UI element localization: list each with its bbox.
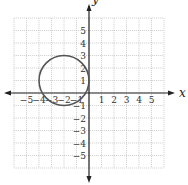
x-axis-right-arrow-icon <box>168 91 175 96</box>
y-tick-label: −5 <box>73 151 87 161</box>
x-tick-label: 1 <box>99 95 105 105</box>
y-axis-label: y <box>91 0 99 6</box>
y-tick-label: 4 <box>80 39 86 49</box>
y-tick-label: 5 <box>80 26 86 36</box>
y-tick-label: −2 <box>73 114 86 124</box>
y-tick-label: 3 <box>80 51 86 61</box>
y-axis-up-arrow-icon <box>87 4 92 11</box>
coordinate-plane: −5−4−3−2−112345−5−4−3−2−112345 x y <box>0 0 188 185</box>
x-tick-label: 5 <box>149 95 155 105</box>
x-tick-label: 3 <box>124 95 130 105</box>
y-tick-label: −4 <box>73 139 87 149</box>
x-tick-label: 2 <box>111 95 117 105</box>
x-axis-label: x <box>179 86 186 100</box>
axes <box>4 4 175 183</box>
x-tick-label: −5 <box>20 95 34 105</box>
y-axis-down-arrow-icon <box>87 176 92 183</box>
x-axis-left-arrow-icon <box>4 91 11 96</box>
x-tick-label: 4 <box>136 95 142 105</box>
x-tick-label: −2 <box>57 95 70 105</box>
y-tick-label: 1 <box>80 76 86 86</box>
y-tick-label: −3 <box>73 126 87 136</box>
